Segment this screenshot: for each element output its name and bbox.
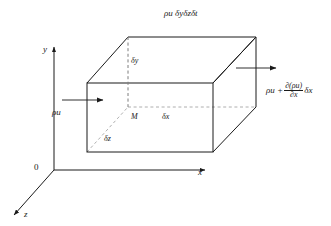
box-hidden-edge-depth-diagonal: [87, 107, 128, 152]
outflow-trailing: δx: [304, 85, 312, 95]
top-face-flux-label: ρu δyδzδt: [164, 9, 198, 18]
control-volume-box: [87, 37, 256, 152]
inflow-flux-label: ρu: [52, 108, 61, 117]
z-axis-label: z: [24, 210, 28, 219]
delta-z-label: δz: [104, 135, 111, 143]
outflow-fraction: ∂(ρu)∂x: [284, 82, 303, 99]
box-top-face: [87, 37, 256, 83]
z-axis: [14, 170, 54, 215]
continuity-control-volume-figure: ρu δyδzδt ρu ρu +∂(ρu)∂xδx δy δx δz M y …: [0, 0, 331, 226]
box-right-face: [213, 37, 256, 152]
delta-y-label: δy: [131, 57, 138, 65]
y-axis-label: y: [43, 45, 47, 54]
origin-label: 0: [34, 163, 39, 172]
x-axis-label: x: [198, 168, 202, 177]
point-m-label: M: [131, 113, 138, 121]
outflow-flux-label: ρu +∂(ρu)∂xδx: [266, 82, 312, 99]
delta-x-label: δx: [162, 113, 169, 121]
outflow-denominator: ∂x: [284, 91, 303, 99]
outflow-lead: ρu +: [266, 85, 283, 95]
coordinate-axes: [14, 47, 205, 215]
